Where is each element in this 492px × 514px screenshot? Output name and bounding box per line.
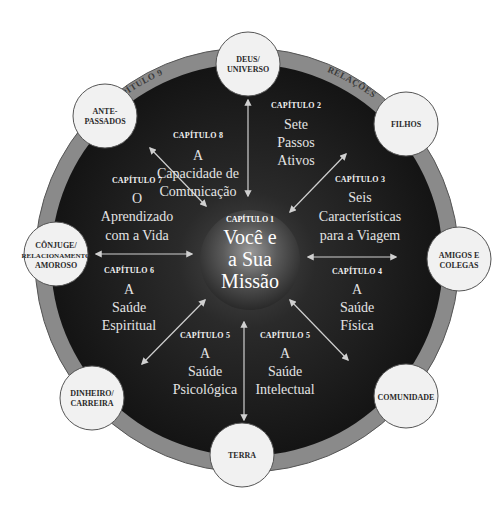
center-chapter-label: CAPÍTULO 1 [226,214,274,224]
satellite-label: COLEGAS [439,261,479,270]
center-circle: CAPÍTULO 1 Você e a Sua Missão [200,210,300,310]
satellite-amigos-colegas: AMIGOS E COLEGAS [427,227,491,291]
satellite-label: FILHOS [391,120,422,129]
satellite-label: RELACIONAMENTO [21,252,91,260]
chapter-label: CAPÍTULO 5 [180,330,230,340]
satellite-label: UNIVERSO [227,65,269,74]
satellite-dinheiro-carreira: DINHEIRO/ CARREIRA [60,366,124,430]
chapter-title-line: com a Vida [105,228,169,243]
chapter-title-line: Psicológica [173,382,238,397]
chapter-title-line: Saúde [268,364,302,379]
chapter-label: CAPÍTULO 8 [173,130,223,140]
chapter-title-line: A [200,346,211,361]
chapter-title-line: Saúde [188,364,222,379]
chapter-title-line: Intelectual [255,382,314,397]
chapter-title-line: Espiritual [102,318,157,333]
chapter-title-line: Capacidade de [157,166,239,181]
chapter-label: CAPÍTULO 3 [335,174,385,184]
chapter-title-line: Seis [348,190,371,205]
center-title-line: Missão [221,270,279,292]
satellite-label: AMIGOS E [439,251,480,260]
satellite-label: CARREIRA [70,399,113,408]
chapter-title-line: Sete [284,117,308,132]
chapter-label: CAPÍTULO 7 [112,175,162,185]
center-title-line: a Sua [228,248,272,270]
chapter-title-line: A [193,148,204,163]
chapter-title-line: Comunicação [160,184,237,199]
satellite-label: CÔNJUGE/ [35,240,77,250]
satellite-label: DEUS/ [236,55,260,64]
chapter-label: CAPÍTULO 2 [271,100,321,110]
chapter-title-line: O [132,191,142,206]
chapter-title-line: A [280,346,291,361]
life-mission-diagram: CAPÍTULO 9 RELAÇÕES CAPÍTULO 8 A Capacid… [0,0,492,514]
satellite-label: AMOROSO [35,261,77,270]
satellite-antepassados: ANTE- PASSADOS [73,84,137,148]
satellite-label: TERRA [228,451,256,460]
satellite-filhos: FILHOS [374,92,438,156]
chapter-title-line: Características [319,209,401,224]
chapter-title-line: Física [340,318,374,333]
satellite-deus-universo: DEUS/ UNIVERSO [216,32,280,96]
chapter-title-line: A [124,282,135,297]
satellite-label: DINHEIRO/ [70,389,114,398]
satellite-terra: TERRA [210,423,274,487]
satellite-label: PASSADOS [84,117,126,126]
chapter-title-line: Aprendizado [101,209,173,224]
chapter-label: CAPÍTULO 4 [332,266,382,276]
center-title-line: Você e [223,226,277,248]
chapter-title-line: Saúde [112,300,146,315]
satellite-label: ANTE- [93,107,118,116]
chapter-label: CAPÍTULO 5 [260,330,310,340]
satellite-label: COMUNIDADE [378,393,435,402]
chapter-title-line: Saúde [340,300,374,315]
chapter-title-line: para a Viagem [320,228,401,243]
chapter-label: CAPÍTULO 6 [104,265,154,275]
chapter-title-line: Ativos [277,153,314,168]
chapter-title-line: Passos [277,135,314,150]
satellite-comunidade: COMUNIDADE [374,364,438,428]
chapter-title-line: A [352,282,363,297]
